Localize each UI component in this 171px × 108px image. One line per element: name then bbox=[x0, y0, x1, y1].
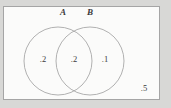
region-value-b-only: .1 bbox=[102, 54, 108, 64]
venn-diagram-canvas: A B .2 .2 .1 .5 bbox=[0, 0, 171, 108]
set-label-a: A bbox=[59, 7, 66, 17]
set-label-b: B bbox=[86, 7, 93, 17]
venn-diagram-figure: A B .2 .2 .1 .5 bbox=[0, 0, 171, 108]
region-value-a-only: .2 bbox=[40, 54, 46, 64]
region-value-intersection: .2 bbox=[71, 54, 77, 64]
region-value-outside: .5 bbox=[141, 83, 147, 93]
